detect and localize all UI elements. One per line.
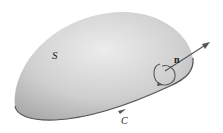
- surface-label: S: [52, 49, 58, 61]
- normal-arrowhead-icon: [202, 42, 210, 49]
- curve-direction-arrow-icon: [118, 109, 126, 114]
- surface-diagram: S n C: [0, 0, 223, 133]
- curve-label: C: [121, 115, 128, 126]
- normal-label: n: [174, 54, 180, 65]
